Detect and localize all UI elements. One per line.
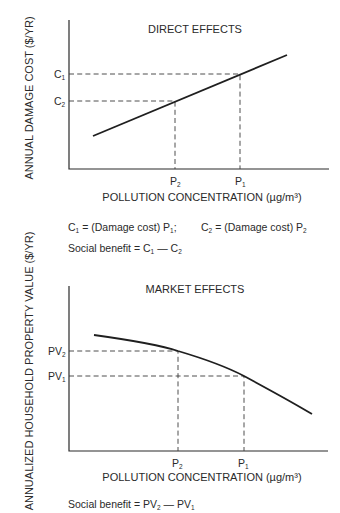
pv2-p2-guide (69, 351, 178, 451)
top-x-axis-label: POLLUTION CONCENTRATION (µg/m³) (102, 191, 301, 203)
diagram-canvas: DIRECT EFFECTS ANNUAL DAMAGE COST ($/YR)… (0, 0, 340, 513)
tick-p2-bottom: P2 (172, 457, 183, 470)
definition-c2: C2= (Damage cost) P2 (201, 221, 307, 234)
tick-p2: P2 (170, 175, 181, 188)
tick-pv1: PV1 (48, 370, 66, 383)
top-axes (69, 20, 329, 169)
c2-p2-guide (69, 101, 175, 169)
tick-c2: C2 (54, 95, 66, 108)
definition-c1: C1= (Damage cost) P1; (68, 221, 177, 234)
bottom-y-axis-label: ANNUALIZED HOUSEHOLD PROPERTY VALUE ($/Y… (23, 232, 35, 511)
direct-effects-title: DIRECT EFFECTS (148, 23, 242, 35)
tick-p1-bottom: P1 (238, 457, 249, 470)
bottom-x-axis-label: POLLUTION CONCENTRATION (µg/m³) (102, 471, 301, 483)
damage-cost-line (93, 55, 287, 136)
bottom-axes (69, 286, 328, 451)
market-effects-title: MARKET EFFECTS (146, 283, 245, 295)
direct-effects-panel: DIRECT EFFECTS ANNUAL DAMAGE COST ($/YR)… (23, 16, 329, 255)
tick-pv2: PV2 (48, 345, 66, 358)
tick-c1: C1 (54, 68, 66, 81)
market-effects-panel: MARKET EFFECTS ANNUALIZED HOUSEHOLD PROP… (23, 232, 328, 511)
tick-p1: P1 (235, 175, 246, 188)
top-y-axis-label: ANNUAL DAMAGE COST ($/YR) (23, 16, 35, 179)
property-value-curve (94, 335, 312, 414)
pv1-p1-guide (69, 376, 244, 451)
top-social-benefit: Social benefit = C1 — C2 (68, 242, 182, 255)
bottom-social-benefit: Social benefit = PV2 — PV1 (68, 498, 195, 511)
c1-p1-guide (69, 74, 240, 169)
